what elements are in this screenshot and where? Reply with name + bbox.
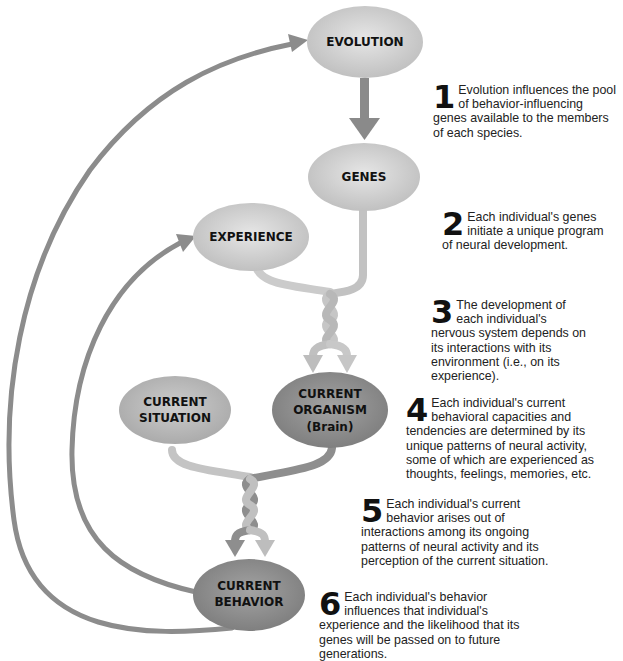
step-text: Evolution influences the pool of behavio… (433, 83, 616, 140)
step-number: 4 (406, 397, 428, 423)
arrowhead-icon (337, 355, 357, 373)
step-1: 1 Evolution influences the pool of behav… (433, 83, 618, 140)
step-text: Each individual's current behavior arise… (361, 497, 548, 568)
arrowhead-icon (255, 540, 275, 557)
node-genes-label: GENES (342, 170, 387, 184)
node-genes: GENES (308, 143, 420, 211)
arrowhead-icon (303, 355, 323, 373)
node-label-line: CURRENT (217, 579, 281, 593)
step-number: 3 (431, 299, 453, 325)
step-3: 3 The development of each individual's n… (431, 298, 591, 383)
node-experience: EXPERIENCE (193, 203, 309, 271)
step-text: Each individual's genes initiate a uniqu… (442, 210, 604, 252)
step-text: The development of each individual's ner… (431, 298, 586, 383)
step-number: 5 (361, 498, 383, 524)
step-number: 2 (442, 211, 464, 237)
node-label-line: (Brain) (307, 420, 354, 434)
step-4: 4 Each individual's current behavioral c… (406, 396, 618, 481)
behavior-strands (172, 448, 332, 542)
node-current-organism: CURRENT ORGANISM (Brain) (272, 372, 388, 448)
arrowhead-icon (288, 34, 308, 52)
step-number: 6 (319, 591, 341, 617)
arrow-evolution-to-genes (349, 78, 380, 140)
step-6: 6 Each individual's behavior influences … (319, 590, 527, 661)
node-current-situation: CURRENT SITUATION (119, 376, 231, 444)
node-label-line: SITUATION (139, 411, 211, 425)
node-experience-label: EXPERIENCE (209, 230, 292, 244)
step-2: 2 Each individual's genes initiate a uni… (442, 210, 614, 253)
node-label-line: CURRENT (143, 395, 207, 409)
node-label-line: ORGANISM (293, 403, 367, 417)
node-label-line: CURRENT (298, 387, 362, 401)
step-text: Each individual's behavior influences th… (319, 590, 519, 661)
step-5: 5 Each individual's current behavior ari… (361, 497, 561, 568)
node-evolution: EVOLUTION (307, 6, 423, 78)
node-current-behavior: CURRENT BEHAVIOR (193, 559, 305, 631)
node-label-line: BEHAVIOR (214, 595, 283, 609)
step-number: 1 (433, 84, 455, 110)
step-text: Each individual's current behavioral cap… (406, 396, 594, 481)
arrowhead-icon (225, 540, 245, 557)
node-evolution-label: EVOLUTION (326, 35, 403, 49)
